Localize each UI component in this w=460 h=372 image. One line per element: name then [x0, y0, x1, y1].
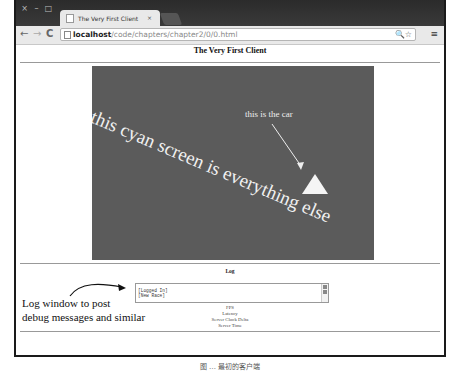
annotation-callout: Log window to post debug messages and si… — [22, 296, 145, 324]
annotation-line: debug messages and similar — [22, 310, 145, 324]
annotation-line: Log window to post — [22, 296, 145, 310]
figure-caption: 图 … 最初的客户端 — [0, 361, 460, 371]
